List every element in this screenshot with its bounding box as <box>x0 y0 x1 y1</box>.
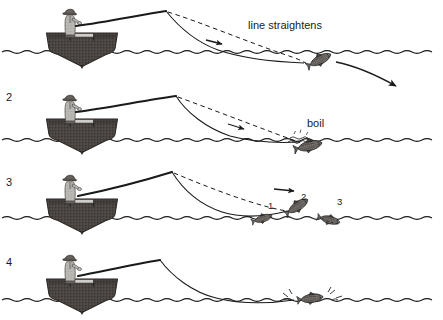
jump-fish-label-3: 3 <box>337 196 342 207</box>
panel-number-3: 3 <box>6 176 12 188</box>
jump-fish-label-1: 1 <box>268 200 273 211</box>
panel-number-4: 4 <box>6 256 12 268</box>
annotation-line-straightens: line straightens <box>248 19 322 31</box>
fishing-sequence-figure <box>0 0 443 320</box>
annotation-boil: boil <box>307 117 324 129</box>
jump-fish-label-2: 2 <box>301 191 306 202</box>
panel-number-2: 2 <box>6 91 12 103</box>
